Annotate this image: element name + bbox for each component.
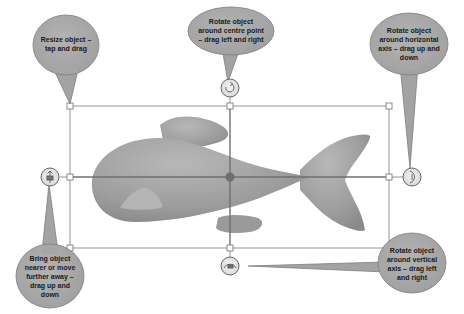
resize-handle-middle-left[interactable] bbox=[67, 174, 73, 180]
rotate-horizontal-control[interactable] bbox=[403, 168, 421, 186]
resize-handle-top-right[interactable] bbox=[386, 103, 392, 109]
fish-body bbox=[92, 138, 310, 222]
callout-text-resize: Resize object – tap and drag bbox=[36, 35, 96, 53]
rotate-vertical-control[interactable] bbox=[221, 257, 239, 275]
callout-text-depth: Bring object nearer or move further away… bbox=[18, 254, 82, 299]
callout-text-rotate-vertical: Rotate object around vertical axis – dra… bbox=[380, 246, 444, 282]
tail-fin bbox=[300, 135, 370, 231]
resize-handle-bottom-center[interactable] bbox=[227, 245, 233, 251]
depth-control[interactable] bbox=[41, 168, 59, 186]
pelvic-fin bbox=[216, 215, 262, 233]
callout-text-rotate-centre: Rotate object around centre point – drag… bbox=[190, 17, 272, 44]
callout-text-rotate-horizontal: Rotate object around horizontal axis – d… bbox=[373, 26, 445, 62]
center-point-handle[interactable] bbox=[226, 173, 235, 182]
resize-handle-middle-right[interactable] bbox=[386, 174, 392, 180]
rotate-centre-control[interactable] bbox=[221, 79, 239, 97]
callout-resize bbox=[33, 15, 99, 104]
resize-handle-top-center[interactable] bbox=[227, 103, 233, 109]
